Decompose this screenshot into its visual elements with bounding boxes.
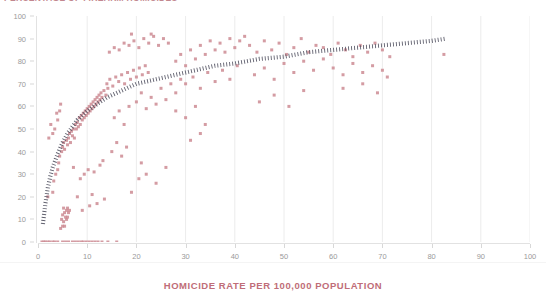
y-tick-label: 60 — [18, 102, 26, 111]
scatter-point — [223, 51, 226, 54]
y-tick-label: 70 — [18, 79, 26, 88]
scatter-point — [194, 57, 197, 60]
x-tick-mark — [382, 244, 383, 248]
scatter-point — [204, 123, 207, 126]
y-tick-mark — [30, 196, 34, 197]
scatter-point — [204, 53, 207, 56]
scatter-point — [191, 76, 194, 79]
scatter-point — [388, 55, 391, 58]
scatter-point — [115, 241, 118, 243]
y-tick-mark — [30, 106, 34, 107]
chart-title: PERCENTAGE OF FIREARM HOMICIDES — [4, 0, 177, 3]
scatter-point — [123, 123, 126, 126]
scatter-point — [104, 94, 107, 97]
scatter-point — [106, 87, 109, 90]
scatter-point — [85, 241, 88, 243]
scatter-point — [129, 78, 132, 81]
scatter-point — [138, 66, 141, 69]
scatter-point — [238, 39, 241, 42]
scatter-point — [108, 51, 111, 54]
scatter-point — [56, 168, 59, 171]
scatter-point — [118, 48, 121, 51]
x-tick-label: 100 — [524, 252, 537, 261]
scatter-point — [117, 80, 120, 83]
scatter-point — [123, 82, 126, 85]
scatter-point — [248, 44, 251, 47]
scatter-point — [81, 209, 84, 212]
scatter-point — [270, 48, 273, 51]
scatter-point — [101, 159, 104, 162]
y-tick-label: 10 — [18, 215, 26, 224]
x-tick-mark — [530, 244, 531, 248]
scatter-point — [66, 143, 69, 146]
y-tick-label: 50 — [18, 125, 26, 134]
x-tick-label: 30 — [181, 252, 189, 261]
scatter-point — [60, 218, 63, 221]
scatter-point — [91, 193, 94, 196]
y-tick-mark — [30, 219, 34, 220]
scatter-point — [292, 46, 295, 49]
scatter-point — [184, 82, 187, 85]
scatter-point — [155, 103, 158, 106]
scatter-point — [64, 241, 67, 243]
scatter-point — [51, 132, 54, 135]
scatter-point — [83, 173, 86, 176]
scatter-point — [48, 241, 51, 243]
x-tick-label: 10 — [83, 252, 91, 261]
scatter-point — [160, 87, 163, 90]
scatter-point — [214, 48, 217, 51]
scatter-chart: PERCENTAGE OF FIREARM HOMICIDES 01020304… — [0, 0, 546, 298]
scatter-point — [243, 35, 246, 38]
scatter-point — [442, 53, 445, 56]
scatter-point — [56, 118, 59, 121]
scatter-point — [114, 76, 117, 79]
scatter-point — [106, 241, 109, 243]
scatter-point — [59, 103, 62, 106]
scatter-point — [342, 87, 345, 90]
plot-area — [38, 16, 530, 242]
y-tick-label: 20 — [18, 192, 26, 201]
scatter-point — [381, 69, 384, 72]
scatter-point — [128, 44, 131, 47]
scatter-point — [199, 132, 202, 135]
scatter-point — [174, 91, 177, 94]
scatter-point — [82, 241, 85, 243]
scatter-point — [56, 241, 59, 243]
scatter-point — [100, 241, 103, 243]
scatter-point — [113, 46, 116, 49]
scatter-point — [74, 241, 77, 243]
x-axis-title: HOMICIDE RATE PER 100,000 POPULATION — [0, 280, 546, 291]
scatter-point — [342, 73, 345, 76]
scatter-point — [140, 91, 143, 94]
scatter-point — [184, 116, 187, 119]
scatter-point — [322, 57, 325, 60]
scatter-point — [113, 116, 116, 119]
scatter-point — [361, 82, 364, 85]
scatter-point — [87, 168, 90, 171]
scatter-point — [103, 198, 106, 201]
scatter-point — [79, 177, 82, 180]
scatter-point — [258, 100, 261, 103]
scatter-point — [147, 42, 150, 45]
scatter-point — [102, 89, 105, 92]
x-tick-mark — [333, 244, 334, 248]
scatter-point — [137, 46, 140, 49]
scatter-point — [91, 241, 94, 243]
y-axis: 0102030405060708090100 — [0, 16, 34, 242]
scatter-point — [53, 241, 56, 243]
x-tick-label: 90 — [477, 252, 485, 261]
scatter-point — [376, 91, 379, 94]
scatter-point — [52, 179, 55, 182]
scatter-point — [253, 73, 256, 76]
x-tick-label: 50 — [280, 252, 288, 261]
scatter-point — [53, 128, 56, 131]
x-tick-mark — [38, 244, 39, 248]
scatter-point — [115, 141, 118, 144]
scatter-point — [110, 150, 113, 153]
footer-divider — [0, 262, 546, 263]
scatter-point — [111, 85, 114, 88]
x-tick-mark — [432, 244, 433, 248]
x-tick-label: 40 — [231, 252, 239, 261]
scatter-point — [337, 42, 340, 45]
y-tick-label: 90 — [18, 34, 26, 43]
